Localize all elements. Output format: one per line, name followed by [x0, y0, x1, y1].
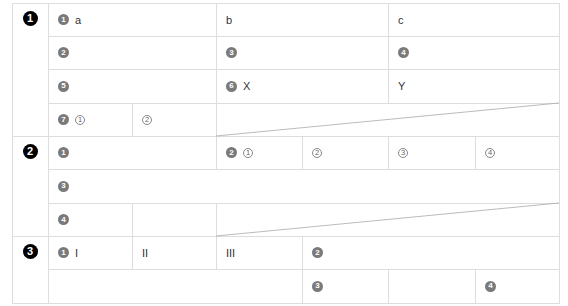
number-marker-icon: 2: [226, 147, 237, 158]
number-marker-icon: 3: [58, 181, 69, 192]
cell-s2-r3-c2: [132, 203, 216, 236]
cell-s2-r1-c5: 4: [475, 136, 559, 169]
section-1-header: 1: [12, 3, 48, 136]
circled-number-icon: 4: [485, 148, 495, 158]
number-marker-icon: 4: [398, 47, 409, 58]
cell-s1-r3-c3: Y: [388, 69, 559, 103]
number-marker-icon: 7: [58, 114, 69, 125]
cell-text: I: [75, 247, 78, 259]
circled-number-icon: 3: [398, 148, 408, 158]
number-marker-icon: 3: [226, 47, 237, 58]
cell-s1-r2-c2: 3: [216, 36, 388, 69]
circled-number-icon: 2: [142, 115, 152, 125]
number-marker-icon: 4: [58, 214, 69, 225]
layout-grid: 1 1 a b c 2 3 4 5 6 X Y 7 1 2 2 1 2: [0, 0, 568, 306]
cell-s1-r4-c1: 7 1: [48, 103, 132, 136]
cell-s1-r1-c1: 1 a: [48, 3, 216, 36]
number-marker-icon: 5: [58, 81, 69, 92]
cell-text: c: [398, 14, 404, 26]
cell-s2-r3-c1: 4: [48, 203, 132, 236]
cell-text: b: [226, 14, 232, 26]
cell-s1-r2-c1: 2: [48, 36, 216, 69]
section-marker-icon: 3: [23, 244, 38, 259]
cell-text: Y: [398, 80, 405, 92]
cell-s2-r2-c1: 3: [48, 169, 559, 203]
cell-s1-r2-c3: 4: [388, 36, 559, 69]
cell-s3-r1-c4: 2: [302, 236, 559, 269]
cell-s1-r1-c2: b: [216, 3, 388, 36]
cell-s1-r4-diagonal: [216, 103, 559, 136]
number-marker-icon: 4: [485, 281, 496, 292]
cell-text: a: [75, 14, 81, 26]
cell-s3-r1-c2: II: [132, 236, 216, 269]
cell-s3-r2-c3: [388, 269, 475, 303]
cell-s1-r3-c2: 6 X: [216, 69, 388, 103]
number-marker-icon: 3: [312, 281, 323, 292]
cell-s3-r2-c4: 4: [475, 269, 559, 303]
number-marker-icon: 1: [58, 147, 69, 158]
cell-s2-r3-diagonal: [216, 203, 559, 236]
cell-s1-r4-c2: 2: [132, 103, 216, 136]
cell-s3-r1-c3: III: [216, 236, 302, 269]
section-2-header: 2: [12, 136, 48, 236]
section-marker-icon: 2: [23, 144, 38, 159]
number-marker-icon: 1: [58, 247, 69, 258]
number-marker-icon: 2: [58, 47, 69, 58]
section-marker-icon: 1: [23, 11, 38, 26]
cell-text: II: [142, 247, 148, 259]
number-marker-icon: 1: [58, 14, 69, 25]
cell-s1-r3-c1: 5: [48, 69, 216, 103]
cell-s3-r1-c1: 1 I: [48, 236, 132, 269]
circled-number-icon: 2: [312, 148, 322, 158]
circled-number-icon: 1: [75, 115, 85, 125]
cell-s2-r1-c4: 3: [388, 136, 475, 169]
cell-text: III: [226, 247, 235, 259]
cell-text: X: [243, 80, 250, 92]
section-3-header: 3: [12, 236, 48, 303]
cell-s3-r2-c2: 3: [302, 269, 388, 303]
number-marker-icon: 6: [226, 81, 237, 92]
cell-s3-r2-c1: [48, 269, 302, 303]
cell-s2-r1-c2: 2 1: [216, 136, 302, 169]
circled-number-icon: 1: [243, 148, 253, 158]
cell-s1-r1-c3: c: [388, 3, 559, 36]
number-marker-icon: 2: [312, 247, 323, 258]
cell-s2-r1-c3: 2: [302, 136, 388, 169]
cell-s2-r1-c1: 1: [48, 136, 216, 169]
